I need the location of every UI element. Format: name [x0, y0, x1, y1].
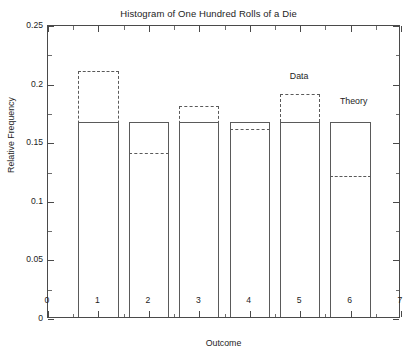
- x-axis-title: Outcome: [47, 338, 400, 348]
- y-axis-tick: [393, 26, 399, 27]
- x-axis-tick: [48, 311, 49, 317]
- y-axis-tick-label: 0.25: [26, 20, 43, 30]
- x-axis-minor-tick: [124, 26, 125, 30]
- y-axis-title: Relative Frequency: [6, 60, 16, 210]
- x-axis-minor-tick: [376, 26, 377, 30]
- bar-theory-outcome-5: [280, 122, 320, 317]
- x-axis-tick-label: 3: [196, 295, 201, 305]
- x-axis-tick: [98, 26, 99, 32]
- x-axis-tick-label: 2: [145, 295, 150, 305]
- bar-theory-outcome-3: [179, 122, 219, 317]
- x-axis-tick-label: 5: [297, 295, 302, 305]
- x-axis-tick: [199, 26, 200, 32]
- y-axis-tick-label: 0.15: [26, 137, 43, 147]
- y-axis-minor-tick: [48, 231, 52, 232]
- x-axis-minor-tick: [225, 26, 226, 30]
- page-caption: [0, 349, 417, 358]
- y-axis-tick: [48, 260, 54, 261]
- y-axis-minor-tick: [48, 55, 52, 56]
- x-axis-tick: [401, 26, 402, 32]
- x-axis-tick-label: 6: [347, 295, 352, 305]
- x-axis-tick-label: 7: [398, 295, 403, 305]
- y-axis-tick: [393, 202, 399, 203]
- x-axis-tick-label: 1: [95, 295, 100, 305]
- bar-theory-outcome-4: [230, 122, 270, 317]
- y-axis-tick: [48, 319, 54, 320]
- y-axis-tick: [393, 319, 399, 320]
- x-axis-tick: [401, 311, 402, 317]
- x-axis-tick: [300, 26, 301, 32]
- x-axis-tick-label: 4: [246, 295, 251, 305]
- x-axis-minor-tick: [225, 314, 226, 318]
- y-axis-tick-label: 0.05: [26, 254, 43, 264]
- y-axis-tick: [393, 143, 399, 144]
- x-axis-minor-tick: [325, 314, 326, 318]
- annotation-theory: Theory: [340, 96, 367, 106]
- x-axis-tick: [351, 26, 352, 32]
- y-axis-tick-label: 0: [38, 313, 43, 323]
- x-axis-minor-tick: [124, 314, 125, 318]
- y-axis-minor-tick: [48, 114, 52, 115]
- y-axis-tick: [48, 202, 54, 203]
- bar-theory-outcome-2: [129, 122, 169, 317]
- y-axis-minor-tick: [396, 55, 400, 56]
- x-axis-minor-tick: [174, 314, 175, 318]
- plot-inner: [48, 26, 399, 317]
- y-axis-minor-tick: [396, 114, 400, 115]
- y-axis-tick-label: 0.2: [31, 79, 43, 89]
- x-axis-minor-tick: [275, 314, 276, 318]
- bar-theory-outcome-1: [78, 122, 118, 317]
- y-axis-minor-tick: [396, 290, 400, 291]
- chart-title: Histogram of One Hundred Rolls of a Die: [0, 8, 417, 19]
- y-axis-tick-label: 0.1: [31, 196, 43, 206]
- y-axis-tick: [48, 85, 54, 86]
- figure-histogram: Histogram of One Hundred Rolls of a Die …: [0, 0, 417, 358]
- x-axis-tick: [149, 26, 150, 32]
- plot-area: [47, 25, 400, 318]
- x-axis-tick-label: 0: [45, 295, 50, 305]
- x-axis-minor-tick: [275, 26, 276, 30]
- y-axis-tick: [393, 260, 399, 261]
- x-axis-minor-tick: [73, 314, 74, 318]
- y-axis-tick: [393, 85, 399, 86]
- x-axis-tick: [250, 26, 251, 32]
- y-axis-minor-tick: [48, 290, 52, 291]
- y-axis-tick: [48, 143, 54, 144]
- y-axis-minor-tick: [48, 173, 52, 174]
- y-axis-minor-tick: [396, 173, 400, 174]
- x-axis-minor-tick: [325, 26, 326, 30]
- y-axis-minor-tick: [396, 231, 400, 232]
- bar-theory-outcome-6: [330, 122, 370, 317]
- x-axis-tick: [48, 26, 49, 32]
- x-axis-minor-tick: [73, 26, 74, 30]
- annotation-data: Data: [290, 71, 309, 81]
- x-axis-minor-tick: [376, 314, 377, 318]
- x-axis-minor-tick: [174, 26, 175, 30]
